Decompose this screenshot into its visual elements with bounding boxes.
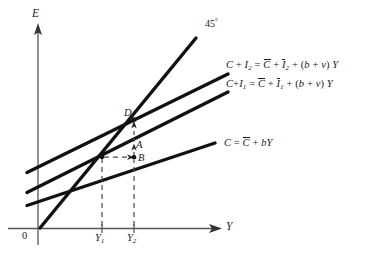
eq1-equals: = — [246, 78, 257, 89]
curve-label-c-plus-i2: C + I2 = C + I2 + (b + v) Y — [226, 60, 338, 72]
y-axis-label: E — [32, 8, 39, 20]
keynesian-cross-figure: E Y 0 Y1 Y2 45° C + I2 = C + I2 + (b + v… — [0, 0, 384, 262]
origin-label: 0 — [22, 231, 27, 242]
eq2-cbar: C — [263, 60, 270, 71]
forty-five-value: 45 — [205, 18, 215, 29]
marker-point-y1-crossing — [100, 155, 104, 159]
eqc-cbar: C — [243, 138, 250, 149]
eq1-cbar: C — [258, 79, 265, 90]
forty-five-degree-label: 45° — [205, 18, 218, 29]
marker-point-d — [132, 117, 137, 122]
eq2-plusv: + — [310, 59, 321, 70]
eq1-plus2: + ( — [284, 78, 299, 89]
curve-label-c-plus-i1: C+I1 = C + I1 + (b + v) Y — [226, 79, 333, 91]
eq1-plusv: + — [304, 78, 315, 89]
eq2-plus1: + — [270, 59, 281, 70]
eq2-plus-lhs: + — [233, 59, 244, 70]
eq2-y: Y — [332, 59, 338, 70]
curve-consumption — [27, 143, 215, 206]
eq1-y: Y — [327, 78, 333, 89]
eq1-ibar: I — [277, 79, 281, 90]
eqc-equals: = — [231, 137, 242, 148]
diagram-canvas — [0, 0, 384, 262]
curve-c-plus-i2 — [27, 74, 228, 173]
point-label-b: B — [138, 153, 144, 164]
point-label-a: A — [136, 140, 142, 151]
degree-symbol: ° — [215, 17, 218, 25]
curve-label-consumption: C = C + bY — [224, 138, 273, 149]
x-tick-label-y2-sub: 2 — [133, 237, 137, 245]
eq2-equals: = — [252, 59, 263, 70]
eqc-plus1: + — [250, 137, 261, 148]
forty-five-degree-line — [40, 38, 196, 228]
marker-point-b — [132, 155, 137, 160]
eq1-plus1: + — [265, 78, 276, 89]
point-label-d: D — [124, 108, 132, 119]
x-tick-label-y1-sub: 1 — [101, 237, 105, 245]
x-tick-label-y2: Y2 — [127, 233, 136, 245]
x-tick-label-y1: Y1 — [95, 233, 104, 245]
eq2-plus2: + ( — [289, 59, 304, 70]
x-axis-label: Y — [226, 221, 232, 233]
eq2-ibar: I — [282, 60, 286, 71]
eqc-y: Y — [267, 137, 273, 148]
